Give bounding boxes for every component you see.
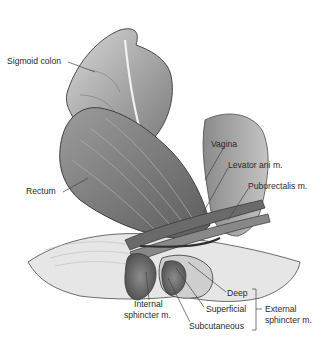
label-internal-1: Internal [134,299,163,309]
label-rectum: Rectum [26,186,56,196]
rectum [60,108,210,238]
label-deep: Deep [227,288,248,298]
label-external-2: sphincter m. [265,315,312,325]
label-superficial: Superficial [206,304,246,314]
label-puborectalis: Puborectalis m. [248,181,307,191]
label-vagina: Vagina [211,139,237,149]
anatomy-diagram: Sigmoid colon Rectum Vagina Levator ani … [0,0,326,339]
label-sigmoid-colon: Sigmoid colon [7,56,61,66]
label-levator-ani: Levator ani m. [228,160,282,170]
label-external-1: External [265,304,297,314]
label-internal-2: sphincter m. [124,310,171,320]
label-subcutaneous: Subcutaneous [189,321,244,331]
